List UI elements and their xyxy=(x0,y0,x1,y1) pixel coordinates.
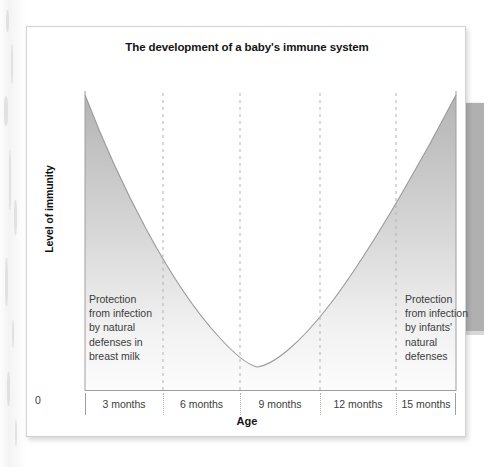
x-tick-label-6-months: 6 months xyxy=(163,391,240,417)
annotation-right-infant-defenses: Protection from infection by infants' na… xyxy=(405,292,489,363)
x-tick-label-15-months: 15 months xyxy=(396,391,456,417)
x-axis-label: Age xyxy=(27,415,467,427)
x-tick-label-9-months: 9 months xyxy=(240,391,320,417)
x-tick-label-12-months: 12 months xyxy=(320,391,396,417)
paper-edge-texture xyxy=(0,0,26,467)
annotation-left-breast-milk: Protection from infection by natural def… xyxy=(89,292,169,363)
x-axis-tick-strip: 3 months 6 months 9 months 12 months 15 … xyxy=(59,391,457,417)
x-tick-label-3-months: 3 months xyxy=(85,391,163,417)
chart-title: The development of a baby's immune syste… xyxy=(27,41,467,53)
y-axis-label: Level of immunity xyxy=(43,149,55,269)
chart-card: The development of a baby's immune syste… xyxy=(26,26,466,437)
y-axis-origin-label: 0 xyxy=(35,394,41,406)
